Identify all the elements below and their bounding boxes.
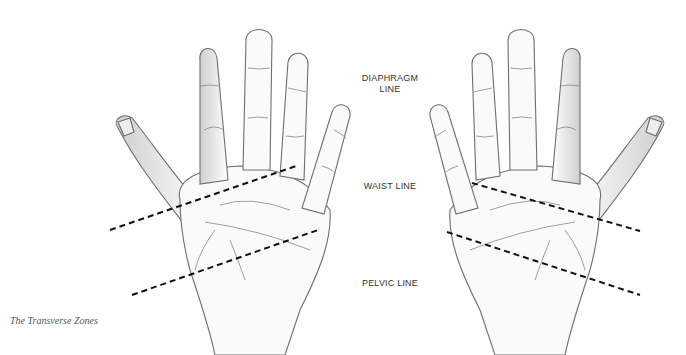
waist-line-label: WAIST LINE xyxy=(345,181,435,192)
diaphragm-line-label: DIAPHRAGM LINE xyxy=(350,73,430,95)
diaphragm-label-line2: LINE xyxy=(350,84,430,95)
hands-illustration xyxy=(0,0,686,355)
left-hand-drawing xyxy=(116,30,350,355)
figure-caption: The Transverse Zones xyxy=(10,315,98,326)
right-hand-drawing xyxy=(430,30,664,355)
pelvic-line-label: PELVIC LINE xyxy=(345,278,435,289)
diaphragm-label-line1: DIAPHRAGM xyxy=(350,73,430,84)
transverse-zones-diagram: DIAPHRAGM LINE WAIST LINE PELVIC LINE Th… xyxy=(0,0,686,355)
